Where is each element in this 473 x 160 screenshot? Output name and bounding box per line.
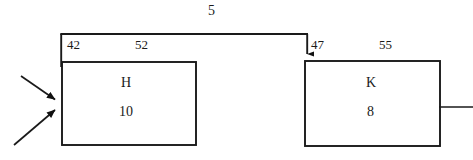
inlet-arrow-lower bbox=[14, 110, 55, 145]
diagram-canvas: 5 42 52 47 55 H 10 K 8 bbox=[0, 0, 473, 160]
flow-label-5: 5 bbox=[208, 4, 215, 18]
block-k-top-left-label: 47 bbox=[311, 38, 324, 52]
inlet-arrow-upper bbox=[21, 76, 55, 100]
block-k-value: 8 bbox=[367, 105, 374, 119]
block-h-name: H bbox=[121, 76, 131, 90]
block-h-top-right-label: 52 bbox=[135, 38, 148, 52]
diagram-drawing bbox=[0, 0, 473, 160]
block-h-value: 10 bbox=[119, 105, 133, 119]
block-k-top-right-label: 55 bbox=[379, 38, 392, 52]
block-h-top-left-label: 42 bbox=[67, 38, 80, 52]
block-k-name: K bbox=[366, 76, 376, 90]
